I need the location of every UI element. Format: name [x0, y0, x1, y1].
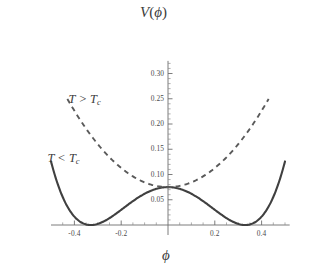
y-axis-title-close-paren: ) — [162, 4, 167, 20]
annotation-hot-text: T > T — [69, 92, 97, 106]
y-tick-label: 0.25 — [138, 94, 164, 103]
potential-plot-figure: -0.4-0.20.20.4 0.050.100.150.200.250.30 … — [0, 0, 331, 279]
y-tick-label: 0.10 — [138, 170, 164, 179]
annotation-t-less-than-tc: T < Tc — [47, 151, 79, 166]
y-axis-title-phi: ϕ — [154, 4, 162, 20]
chart-canvas — [0, 0, 331, 279]
annotation-t-greater-than-tc: T > Tc — [69, 92, 101, 107]
y-tick-label: 0.30 — [138, 69, 164, 78]
x-tick-label: -0.2 — [107, 229, 135, 238]
axes-group — [51, 61, 290, 235]
x-tick-label: 0.2 — [201, 229, 229, 238]
y-axis-ticks — [168, 63, 173, 220]
y-tick-label: 0.15 — [138, 144, 164, 153]
x-tick-label: -0.4 — [60, 229, 88, 238]
y-tick-label: 0.05 — [138, 195, 164, 204]
annotation-cold-subscript: c — [76, 156, 80, 166]
y-axis-title: V(ϕ) — [140, 4, 167, 21]
x-tick-label: 0.4 — [248, 229, 276, 238]
y-tick-label: 0.20 — [138, 119, 164, 128]
y-axis-title-v: V — [140, 4, 149, 20]
annotation-hot-subscript: c — [97, 97, 101, 107]
x-axis-title: ϕ — [162, 247, 170, 264]
annotation-cold-text: T < T — [47, 151, 75, 165]
